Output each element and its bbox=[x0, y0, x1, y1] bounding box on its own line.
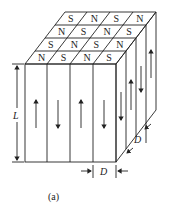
depth-dimension: D bbox=[127, 123, 151, 153]
pole-label-N: N bbox=[58, 26, 65, 37]
label-D-depth: D bbox=[133, 134, 142, 145]
pole-label-N: N bbox=[103, 26, 110, 37]
figure-caption: (a) bbox=[48, 191, 59, 203]
pole-label-S: S bbox=[126, 26, 132, 37]
label-L: L bbox=[12, 110, 19, 121]
pole-label-N: N bbox=[136, 13, 143, 24]
pole-label-N: N bbox=[71, 39, 78, 50]
pole-label-S: S bbox=[106, 52, 112, 63]
magnet-array-diagram: SNSNNSNSSNSNNSNS L D D (a) bbox=[0, 0, 169, 205]
label-D-width: D bbox=[99, 166, 108, 177]
front-face bbox=[25, 64, 116, 162]
pole-label-S: S bbox=[81, 26, 87, 37]
pole-label-S: S bbox=[68, 13, 74, 24]
pole-label-N: N bbox=[116, 39, 123, 50]
pole-label-S: S bbox=[93, 39, 99, 50]
pole-label-N: N bbox=[83, 52, 90, 63]
width-dimension: D bbox=[81, 165, 128, 178]
pole-label-S: S bbox=[48, 39, 54, 50]
height-dimension: L bbox=[12, 64, 24, 162]
pole-label-S: S bbox=[113, 13, 119, 24]
pole-label-N: N bbox=[91, 13, 98, 24]
pole-label-S: S bbox=[61, 52, 67, 63]
pole-label-N: N bbox=[38, 52, 45, 63]
